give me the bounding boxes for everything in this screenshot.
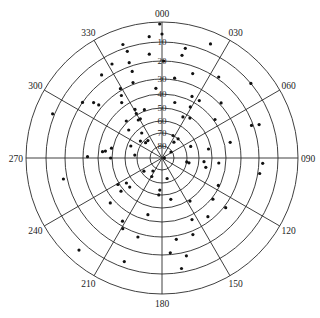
data-point (190, 218, 193, 221)
data-point (211, 198, 214, 201)
data-point (158, 189, 161, 192)
data-point (154, 87, 157, 90)
data-point (150, 175, 153, 178)
azimuth-label-090: 090 (301, 154, 316, 164)
elevation-label-30: 30 (158, 74, 168, 84)
data-point (189, 105, 192, 108)
data-point (198, 99, 201, 102)
data-point (110, 62, 113, 65)
data-point (206, 215, 209, 218)
data-point (144, 141, 147, 144)
data-point (217, 184, 220, 187)
data-point (110, 147, 113, 150)
data-point (126, 50, 129, 53)
data-point (171, 134, 174, 137)
data-point (207, 147, 210, 150)
data-point (140, 131, 143, 134)
spoke-240 (44, 158, 162, 226)
elevation-label-70: 70 (158, 128, 168, 138)
data-point (128, 186, 131, 189)
elevation-label-80: 80 (158, 141, 168, 151)
data-point (258, 172, 261, 175)
azimuth-label-060: 060 (282, 81, 297, 91)
data-point (173, 101, 176, 104)
data-point (135, 112, 138, 115)
data-point (187, 161, 190, 164)
spoke-150 (162, 158, 230, 276)
data-point (121, 220, 124, 223)
data-point (120, 94, 123, 97)
data-point (123, 260, 126, 263)
azimuth-label-300: 300 (28, 81, 43, 91)
data-point (125, 119, 128, 122)
data-point (119, 190, 122, 193)
data-point (258, 123, 261, 126)
data-point (209, 42, 212, 45)
data-point (250, 124, 253, 127)
data-point (191, 72, 194, 75)
elevation-label-10: 10 (158, 37, 168, 47)
data-point (158, 22, 161, 25)
data-point (119, 87, 122, 90)
data-point (109, 201, 112, 204)
data-point (86, 155, 89, 158)
data-point (97, 103, 100, 106)
azimuth-label-330: 330 (81, 28, 96, 38)
data-point (177, 137, 180, 140)
data-point (162, 59, 165, 62)
data-point (204, 166, 207, 169)
data-point (180, 267, 183, 270)
spoke-60 (162, 90, 280, 158)
azimuth-label-270: 270 (9, 154, 24, 164)
data-point (151, 169, 154, 172)
data-point (190, 95, 193, 98)
data-point (116, 183, 119, 186)
data-point (180, 54, 183, 57)
data-point (127, 128, 130, 131)
data-point (77, 249, 80, 252)
data-point (217, 161, 220, 164)
data-point (121, 227, 124, 230)
data-point (169, 251, 172, 254)
elevation-label-40: 40 (158, 89, 168, 99)
data-point (146, 213, 149, 216)
data-point (148, 53, 151, 56)
data-point (131, 70, 134, 73)
data-point (139, 140, 142, 143)
data-point (120, 101, 123, 104)
polar-sky-plot: 000030060090120150180210240270300330 102… (0, 0, 320, 318)
data-point (81, 101, 84, 104)
data-point (139, 117, 142, 120)
azimuth-label-240: 240 (28, 226, 43, 236)
azimuth-label-120: 120 (282, 226, 297, 236)
data-point (163, 156, 166, 159)
data-point (92, 101, 95, 104)
data-point (181, 115, 184, 118)
data-point (62, 177, 65, 180)
data-point (148, 35, 151, 38)
data-point (51, 112, 54, 115)
data-point (184, 47, 187, 50)
data-point (185, 254, 188, 257)
data-point (202, 160, 205, 163)
spoke-330 (94, 40, 162, 158)
data-point (249, 82, 252, 85)
data-point (100, 73, 103, 76)
data-point (160, 32, 163, 35)
data-point (229, 141, 232, 144)
data-point (175, 238, 178, 241)
data-point (143, 108, 146, 111)
data-point (220, 101, 223, 104)
data-point (169, 150, 172, 153)
data-point (217, 75, 220, 78)
data-point (172, 141, 175, 144)
data-point (224, 206, 227, 209)
data-point (101, 150, 104, 153)
data-point (191, 233, 194, 236)
spoke-120 (162, 158, 280, 226)
spoke-30 (162, 40, 230, 158)
data-point (133, 108, 136, 111)
data-point (136, 235, 139, 238)
data-point (173, 77, 176, 80)
data-point (188, 200, 191, 203)
